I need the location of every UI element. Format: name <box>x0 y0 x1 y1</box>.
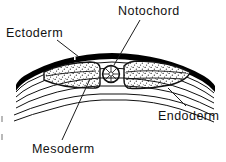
label-notochord: Notochord <box>118 5 180 18</box>
label-endoderm: Endoderm <box>158 110 219 123</box>
label-ectoderm: Ectoderm <box>6 27 63 40</box>
label-mesoderm: Mesoderm <box>32 143 95 156</box>
embryo-diagram-svg <box>0 0 226 162</box>
embryo-cross-section-figure: Ectoderm Notochord Endoderm Mesoderm <box>0 0 226 162</box>
notochord-core <box>109 72 113 76</box>
scan-artifact-lower <box>1 134 3 140</box>
ectoderm-highlight-nick <box>74 57 76 60</box>
scan-artifact-upper <box>1 116 3 122</box>
notochord-structure <box>103 66 120 83</box>
